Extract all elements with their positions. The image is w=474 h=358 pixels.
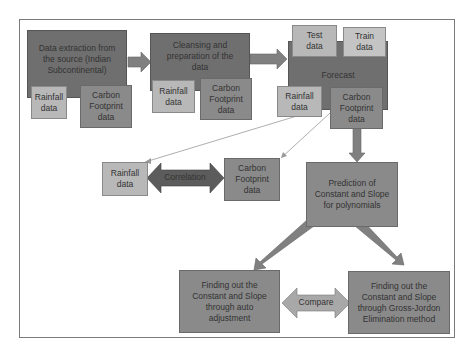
rainfall-label: Rainfall data [103,168,147,190]
rainfall-label: Rainfall data [32,92,66,114]
gauss-jordan-label: Finding out the Constant and Slope throu… [355,281,443,325]
carbon-label: Carbon Footprint data [87,90,125,123]
rainfall-data-box: Rainfall data [31,86,67,119]
arrow-right-icon [128,52,151,72]
arrow-diagonal-icon [254,220,404,270]
auto-adjustment-label: Finding out the Constant and Slope throu… [188,280,271,324]
carbon-footprint-box: Carbon Footprint data [330,87,383,129]
gauss-jordan-box: Finding out the Constant and Slope throu… [348,271,450,334]
correlation-carbon-box: Carbon Footprint data [224,158,280,201]
rainfall-label: Rainfall data [278,91,321,113]
connector-line [281,113,330,158]
prediction-label: Prediction of Constant and Slope for pol… [313,178,391,211]
correlation-label: Correlation [160,172,210,182]
carbon-footprint-box: Carbon Footprint data [200,78,252,120]
carbon-label: Carbon Footprint data [231,163,273,196]
stage-forecast-label: Forecast [321,70,354,81]
carbon-footprint-box: Carbon Footprint data [80,85,132,128]
carbon-label: Carbon Footprint data [207,83,245,116]
correlation-rainfall-box: Rainfall data [102,162,148,196]
rainfall-label: Rainfall data [153,86,194,108]
rainfall-data-box: Rainfall data [277,86,322,117]
rainfall-data-box: Rainfall data [152,80,195,113]
train-data-label: Train data [344,31,385,53]
test-data-box: Test data [292,25,337,57]
carbon-label: Carbon Footprint data [337,92,376,125]
arrow-down-icon [349,128,365,162]
stage-cleansing-label: Cleansing and preparation of the data [151,40,249,73]
train-data-box: Train data [343,27,386,57]
test-data-label: Test data [293,30,336,52]
prediction-box: Prediction of Constant and Slope for pol… [306,162,398,227]
auto-adjustment-box: Finding out the Constant and Slope throu… [179,270,280,333]
compare-label: Compare [296,297,336,307]
stage-extraction-label: Data extraction from the source (Indian … [28,43,126,76]
arrow-right-icon [250,49,287,69]
